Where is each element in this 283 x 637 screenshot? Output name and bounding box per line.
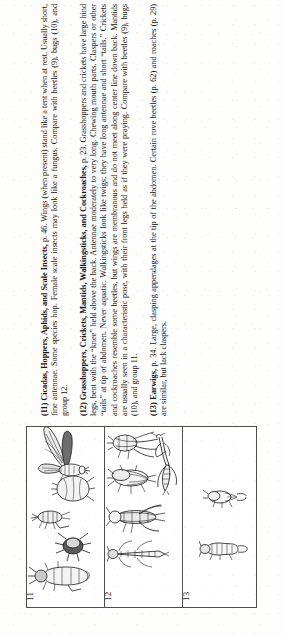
leafhopper-nymph-icon: [29, 503, 71, 531]
entry-13-fulltext: (13) Earwigs, p. 34. Large, clasping app…: [149, 4, 168, 416]
text-column: (11) Cicadas, Hoppers, Aphids, and Scale…: [38, 0, 268, 420]
aphid-icon: [53, 529, 93, 563]
mantid-icon: [145, 433, 182, 495]
illustration-panel-11: 11: [27, 427, 104, 607]
entry-13-text: (13) Earwigs, p. 34. Large, clasping app…: [149, 4, 169, 416]
earwig-long-icon: [199, 537, 249, 561]
entry-12-text: (12) Grasshoppers, Crickets, Mantids, Wa…: [79, 4, 140, 416]
walkingstick-icon: [107, 539, 169, 569]
panel-number-11: 11: [27, 592, 35, 601]
grasshopper-icon: [106, 501, 166, 535]
entry-11-text: (11) Cicadas, Hoppers, Aphids, and Scale…: [40, 4, 70, 416]
illustration-panel-13: 13: [182, 427, 256, 607]
scanned-page: (11) Cicadas, Hoppers, Aphids, and Scale…: [0, 0, 283, 637]
illustration-panel-row: 11: [26, 426, 257, 608]
scale-insect-icon: [51, 473, 95, 507]
earwig-short-icon: [203, 485, 247, 509]
panel-number-12: 12: [104, 591, 113, 601]
entry-11-fulltext: (11) Cicadas, Hoppers, Aphids, and Scale…: [40, 4, 69, 416]
entry-12-fulltext: (12) Grasshoppers, Crickets, Mantids, Wa…: [79, 4, 138, 416]
panel-number-13: 13: [182, 591, 191, 601]
illustration-panel-12: 12: [104, 427, 182, 607]
hopper-adult-icon: [28, 560, 94, 592]
text-column-rotated: (11) Cicadas, Hoppers, Aphids, and Scale…: [38, 0, 268, 420]
